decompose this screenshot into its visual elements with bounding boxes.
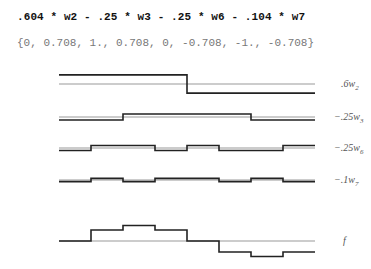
series-label: .6w2 — [341, 78, 359, 92]
series-label: −.25w6 — [334, 142, 363, 156]
series-label: −.1w7 — [334, 174, 358, 188]
series-label: f — [343, 235, 346, 249]
series-label: −.25w3 — [334, 111, 363, 125]
step-plot — [0, 0, 371, 269]
